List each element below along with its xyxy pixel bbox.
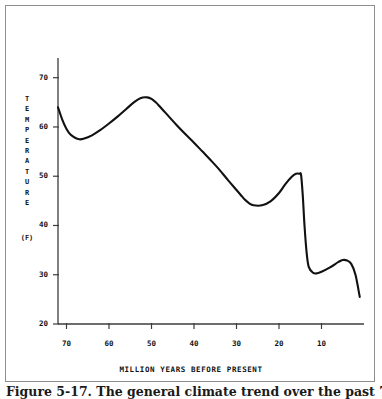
y-axis-title-letter: E [20,136,34,146]
x-tick-label: 50 [141,339,163,348]
y-tick-label: 40 [26,220,48,229]
temperature-curve-svg [6,6,376,383]
x-axis-title: MILLION YEARS BEFORE PRESENT [6,365,376,374]
y-axis-title-letter: A [20,156,34,166]
x-tick-label: 40 [183,339,205,348]
figure-frame: TEMPERATURE (F) 203040506070 70605040302… [5,5,375,382]
y-tick-label: 60 [26,122,48,131]
y-axis-title-letter: R [20,146,34,156]
y-axis-title: TEMPERATURE [20,94,34,208]
y-tick-label: 20 [26,319,48,328]
y-tick-label: 50 [26,171,48,180]
y-axis-title-letter: E [20,198,34,208]
x-tick-label: 30 [226,339,248,348]
x-tick-label: 70 [56,339,78,348]
y-tick-label: 70 [26,73,48,82]
x-tick-label: 10 [311,339,333,348]
y-axis-title-letter: E [20,104,34,114]
y-tick-label: 30 [26,270,48,279]
y-axis-title-letter: T [20,94,34,104]
chart-plot-area: TEMPERATURE (F) 203040506070 70605040302… [6,6,376,383]
y-axis-units-label: (F) [16,234,38,242]
x-tick-label: 20 [268,339,290,348]
y-axis-title-letter: R [20,188,34,198]
temperature-line-series [58,97,360,297]
figure-caption: Figure 5-17. The general climate trend o… [6,384,382,399]
x-tick-label: 60 [98,339,120,348]
